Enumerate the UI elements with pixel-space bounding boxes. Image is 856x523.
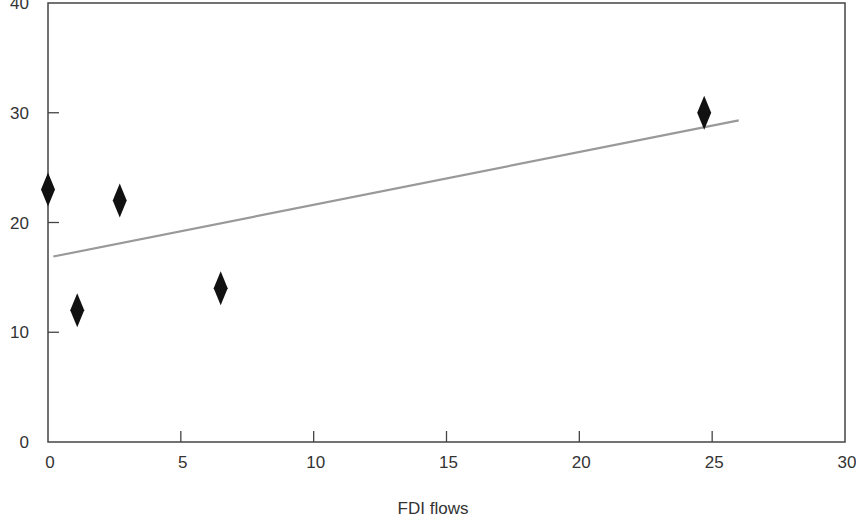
data-points xyxy=(41,96,711,328)
y-tick-label: 30 xyxy=(10,104,29,123)
y-axis: 010203040 xyxy=(10,0,59,452)
trend-line xyxy=(53,120,738,256)
plot-frame xyxy=(48,3,845,442)
x-tick-label: 20 xyxy=(572,453,591,472)
y-tick-label: 0 xyxy=(20,433,29,452)
diamond-marker xyxy=(214,271,228,305)
diamond-marker xyxy=(113,184,127,218)
diamond-marker xyxy=(41,173,55,207)
x-tick-label: 0 xyxy=(45,453,54,472)
y-tick-label: 40 xyxy=(10,0,29,13)
x-tick-label: 15 xyxy=(439,453,458,472)
x-tick-label: 10 xyxy=(306,453,325,472)
x-axis: 051015202530 xyxy=(45,431,856,472)
x-tick-label: 30 xyxy=(838,453,856,472)
x-axis-title: FDI flows xyxy=(398,499,469,518)
scatter-chart: 010203040 051015202530 FDI flows xyxy=(0,0,856,523)
x-tick-label: 5 xyxy=(178,453,187,472)
y-tick-label: 10 xyxy=(10,323,29,342)
y-tick-label: 20 xyxy=(10,214,29,233)
diamond-marker xyxy=(697,96,711,130)
diamond-marker xyxy=(70,293,84,327)
x-tick-label: 25 xyxy=(705,453,724,472)
